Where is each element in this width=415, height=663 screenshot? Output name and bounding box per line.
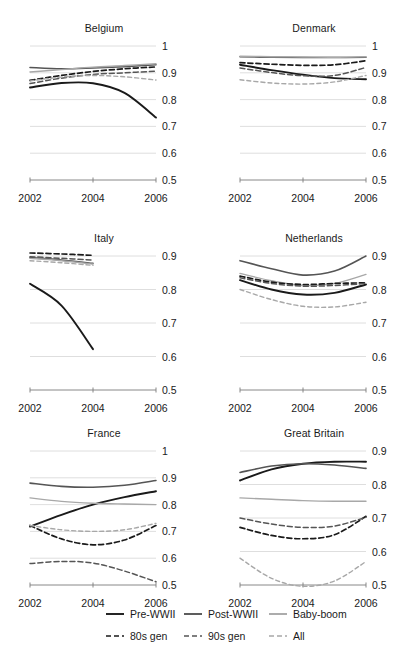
panel-great-britain: Great Britain0.90.80.70.60.5200220042006 <box>214 427 414 622</box>
panel-italy: Italy0.90.80.70.60.5200220042006 <box>4 232 204 427</box>
panel-title: Belgium <box>4 22 204 34</box>
panel-france: France10.90.80.70.60.5200220042006 <box>4 427 204 622</box>
chart-page: Belgium10.90.80.70.60.5200220042006Denma… <box>0 0 415 663</box>
y-tick-label: 0.9 <box>162 67 177 79</box>
chart-legend: Pre-WWIIPost-WWIIBaby-boom80s gen90s gen… <box>0 604 415 654</box>
y-tick-label: 0.9 <box>372 250 387 262</box>
y-tick-label: 0.5 <box>372 579 387 591</box>
x-tick-label: 2006 <box>144 402 167 414</box>
y-tick-label: 0.9 <box>372 445 387 457</box>
y-tick-label: 0.8 <box>372 479 387 491</box>
legend-swatch-icon <box>183 631 203 641</box>
panel-denmark: Denmark10.90.80.70.60.5200220042006 <box>214 22 414 217</box>
y-tick-label: 0.7 <box>162 317 177 329</box>
y-tick-label: 0.7 <box>372 317 387 329</box>
x-tick-label: 2006 <box>354 402 377 414</box>
y-axis-labels: 0.90.80.70.60.5 <box>214 445 414 595</box>
y-tick-label: 0.5 <box>162 384 177 396</box>
x-tick-label: 2002 <box>18 402 41 414</box>
y-tick-label: 0.5 <box>162 174 177 186</box>
x-tick-label: 2004 <box>291 192 314 204</box>
legend-swatch-icon <box>268 631 288 641</box>
y-tick-label: 0.8 <box>162 284 177 296</box>
y-tick-label: 0.8 <box>162 499 177 511</box>
panel-title: Italy <box>4 232 204 244</box>
y-tick-label: 0.8 <box>162 94 177 106</box>
y-tick-label: 0.8 <box>372 284 387 296</box>
x-tick-label: 2004 <box>81 402 104 414</box>
legend-item-90s-gen[interactable]: 90s gen <box>183 630 245 642</box>
y-axis-labels: 10.90.80.70.60.5 <box>4 40 204 190</box>
legend-label: All <box>293 630 305 642</box>
y-tick-label: 0.5 <box>372 384 387 396</box>
x-axis-labels: 200220042006 <box>214 192 414 208</box>
y-tick-label: 0.6 <box>372 147 387 159</box>
x-tick-label: 2002 <box>228 402 251 414</box>
y-tick-label: 1 <box>372 40 378 52</box>
x-tick-label: 2002 <box>18 192 41 204</box>
y-tick-label: 1 <box>162 40 168 52</box>
x-tick-label: 2004 <box>291 402 314 414</box>
x-tick-label: 2004 <box>81 192 104 204</box>
y-tick-label: 0.6 <box>372 546 387 558</box>
legend-label: 80s gen <box>130 630 167 642</box>
panel-title: Denmark <box>214 22 414 34</box>
legend-item-pre-wwii[interactable]: Pre-WWII <box>105 608 176 620</box>
panel-netherlands: Netherlands0.90.80.70.60.5200220042006 <box>214 232 414 427</box>
y-axis-labels: 0.90.80.70.60.5 <box>4 250 204 400</box>
legend-label: 90s gen <box>208 630 245 642</box>
y-tick-label: 0.6 <box>162 147 177 159</box>
panel-belgium: Belgium10.90.80.70.60.5200220042006 <box>4 22 204 217</box>
y-axis-labels: 0.90.80.70.60.5 <box>214 250 414 400</box>
y-tick-label: 0.9 <box>372 67 387 79</box>
panel-title: Great Britain <box>214 427 414 439</box>
y-tick-label: 1 <box>162 445 168 457</box>
x-tick-label: 2006 <box>144 192 167 204</box>
legend-label: Baby-boom <box>293 608 347 620</box>
y-tick-label: 0.5 <box>372 174 387 186</box>
legend-swatch-icon <box>183 609 203 619</box>
y-tick-label: 0.9 <box>162 250 177 262</box>
y-tick-label: 0.7 <box>162 120 177 132</box>
y-tick-label: 0.8 <box>372 94 387 106</box>
x-axis-labels: 200220042006 <box>214 402 414 418</box>
y-tick-label: 0.6 <box>162 351 177 363</box>
y-tick-label: 0.7 <box>372 512 387 524</box>
x-axis-labels: 200220042006 <box>4 192 204 208</box>
y-tick-label: 0.7 <box>162 525 177 537</box>
legend-item-80s-gen[interactable]: 80s gen <box>105 630 167 642</box>
legend-item-all[interactable]: All <box>268 630 305 642</box>
y-tick-label: 0.5 <box>162 579 177 591</box>
legend-swatch-icon <box>268 609 288 619</box>
y-tick-label: 0.6 <box>372 351 387 363</box>
x-axis-labels: 200220042006 <box>4 402 204 418</box>
legend-swatch-icon <box>105 609 125 619</box>
y-tick-label: 0.9 <box>162 472 177 484</box>
legend-item-baby-boom[interactable]: Baby-boom <box>268 608 347 620</box>
y-axis-labels: 10.90.80.70.60.5 <box>214 40 414 190</box>
x-tick-label: 2002 <box>228 192 251 204</box>
y-tick-label: 0.7 <box>372 120 387 132</box>
legend-swatch-icon <box>105 631 125 641</box>
legend-label: Post-WWII <box>208 608 258 620</box>
x-tick-label: 2006 <box>354 192 377 204</box>
y-tick-label: 0.6 <box>162 552 177 564</box>
panel-title: France <box>4 427 204 439</box>
legend-item-post-wwii[interactable]: Post-WWII <box>183 608 258 620</box>
y-axis-labels: 10.90.80.70.60.5 <box>4 445 204 595</box>
legend-label: Pre-WWII <box>130 608 176 620</box>
panel-title: Netherlands <box>214 232 414 244</box>
